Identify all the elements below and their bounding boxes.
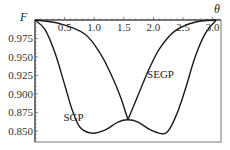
y-tick-label: 0.900 bbox=[8, 88, 33, 100]
series-segp-label: SEGP bbox=[147, 68, 174, 80]
x-tick-label: 2.0 bbox=[147, 21, 161, 33]
curves bbox=[35, 20, 216, 134]
y-tick-label: 0.975 bbox=[8, 32, 33, 44]
series-sgp-label: SGP bbox=[63, 111, 83, 123]
x-tick-label: 1.0 bbox=[87, 21, 101, 33]
x-axis-label: θ bbox=[214, 2, 220, 16]
fidelity-chart: 0.51.01.52.02.53.00.9750.9500.9250.9000.… bbox=[0, 0, 230, 150]
curve-labels: SGPSEGP bbox=[63, 68, 174, 123]
x-tick-label: 1.5 bbox=[117, 21, 131, 33]
y-tick-label: 0.875 bbox=[8, 106, 33, 118]
series-segp-line bbox=[35, 20, 216, 120]
series-sgp-line bbox=[35, 20, 216, 134]
y-tick-label: 0.850 bbox=[8, 125, 33, 137]
x-tick-label: 2.5 bbox=[176, 21, 190, 33]
y-tick-label: 0.925 bbox=[8, 69, 33, 81]
y-axis-label: F bbox=[19, 10, 28, 24]
y-tick-label: 0.950 bbox=[8, 51, 33, 63]
